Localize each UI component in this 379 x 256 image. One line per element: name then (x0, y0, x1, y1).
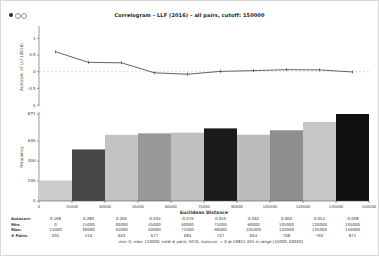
table-cell: 15000 (82, 222, 95, 227)
x-axis-tick-label: 150000 (362, 204, 377, 209)
table-cell: 0 (54, 222, 57, 227)
histogram-bar (336, 114, 369, 201)
table-cell: 45000 (115, 227, 128, 232)
x-axis-tick-label: 105000 (263, 204, 278, 209)
table-cell: 90000 (247, 222, 260, 227)
x-axis-tick-label: 30000 (99, 204, 112, 209)
table-row-label: # Pairs: (11, 233, 29, 238)
histogram-bar (204, 128, 237, 201)
correlogram-figure: Autocorr. of LLF (2016) Frequency Euclid… (1, 1, 379, 256)
table-row-label: Autocorr. (11, 216, 32, 221)
histogram-bar (39, 181, 72, 201)
table-cell: 90000 (214, 227, 227, 232)
table-row-label: Min: (11, 222, 21, 227)
correlogram-plot-canvas: Autocorr. of LLF (2016) Frequency Euclid… (1, 1, 379, 256)
autocorr-line (56, 52, 353, 75)
top-chart-y-axis-title: Autocorr. of LLF (2016) (19, 43, 24, 91)
top-chart-y-tick-label: 1 (33, 36, 36, 41)
table-row-label: Max: (11, 227, 22, 232)
table-cell: 0.054 (314, 216, 326, 221)
table-cell: 871 (349, 233, 357, 238)
table-cell: 45000 (148, 222, 161, 227)
table-cell: 708 (283, 233, 291, 238)
table-cell: 0.010 (215, 216, 227, 221)
x-axis-tick-label: 90000 (231, 204, 244, 209)
summary-footnote: min: 0, max: 150000, total # pairs: 5076… (119, 239, 304, 244)
top-chart-y-tick-label: -0.5 (28, 86, 36, 91)
table-cell: 0.598 (50, 216, 62, 221)
table-cell: 0.280 (83, 216, 95, 221)
table-cell: 792 (316, 233, 324, 238)
top-chart-y-tick-label: -1 (32, 103, 36, 108)
x-axis-tick-label: 15000 (66, 204, 79, 209)
x-axis-tick-label: 135000 (329, 204, 344, 209)
x-axis-tick-label: 60000 (165, 204, 178, 209)
table-cell: 684 (184, 233, 192, 238)
table-cell: 105000 (279, 222, 294, 227)
table-cell: 516 (85, 233, 93, 238)
table-cell: 135000 (312, 227, 327, 232)
table-cell: 664 (250, 233, 258, 238)
app-window: Correlogram – LLF (2016) – all pairs, cu… (0, 0, 379, 256)
x-axis-tick-label: 75000 (198, 204, 211, 209)
bottom-chart-y-tick-label: 200 (28, 178, 36, 183)
table-cell: 60000 (181, 222, 194, 227)
table-cell: 30000 (115, 222, 128, 227)
table-cell: -0.076 (181, 216, 194, 221)
table-cell: -0.034 (148, 216, 161, 221)
histogram-bar (138, 133, 171, 201)
table-cell: -0.008 (346, 216, 359, 221)
table-cell: 60000 (148, 227, 161, 232)
top-chart-y-tick-label: 0.5 (29, 52, 36, 57)
table-cell: 150000 (345, 227, 360, 232)
x-axis-tick-label: 45000 (132, 204, 145, 209)
table-cell: 0.060 (281, 216, 293, 221)
bottom-chart-y-tick-label: 871 (28, 111, 36, 116)
table-cell: 105000 (246, 227, 261, 232)
table-cell: 75000 (181, 227, 194, 232)
table-cell: 30000 (82, 227, 95, 232)
table-cell: 677 (151, 233, 159, 238)
x-axis-tick-label: 120000 (296, 204, 311, 209)
table-cell: 120000 (312, 222, 327, 227)
histogram-bar (237, 135, 270, 201)
table-cell: 15000 (49, 227, 62, 232)
histogram-bar (72, 149, 105, 201)
histogram-bar (171, 133, 204, 201)
histogram-bar (270, 130, 303, 201)
table-cell: 205 (52, 233, 60, 238)
table-cell: 135000 (345, 222, 360, 227)
x-axis-title: Euclidean Distance (180, 210, 228, 215)
table-cell: 120000 (279, 227, 294, 232)
top-chart-y-tick-label: 0 (33, 69, 36, 74)
bottom-chart-y-tick-label: 400 (28, 158, 36, 163)
table-cell: 663 (118, 233, 126, 238)
bottom-chart-y-tick-label: 600 (28, 138, 36, 143)
histogram-bar (105, 135, 138, 201)
histogram-bar (303, 122, 336, 201)
table-cell: 0.032 (248, 216, 260, 221)
table-cell: 0.266 (116, 216, 128, 221)
bottom-chart-y-axis-title: Frequency (19, 146, 24, 168)
bottom-chart-y-tick-label: 0 (33, 198, 36, 203)
table-cell: 727 (217, 233, 225, 238)
table-cell: 75000 (214, 222, 227, 227)
x-axis-tick-label: 0 (38, 204, 41, 209)
